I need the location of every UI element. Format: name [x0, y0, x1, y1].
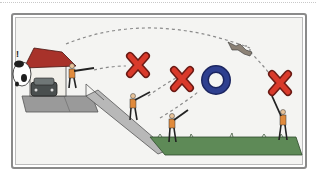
shooter-1	[69, 64, 94, 89]
broken-clay-icon	[228, 42, 252, 56]
marker-x-3	[272, 74, 288, 92]
cow: !	[13, 49, 31, 87]
shooter-2	[130, 92, 150, 120]
car	[31, 78, 57, 96]
marker-o	[205, 69, 227, 91]
marker-x-1	[130, 56, 146, 74]
marker-x-2	[174, 70, 190, 88]
alert-exclamation: !	[16, 49, 19, 59]
shooting-scene: !	[0, 0, 316, 176]
concrete-pad	[22, 96, 98, 112]
shooter-4	[272, 96, 287, 140]
